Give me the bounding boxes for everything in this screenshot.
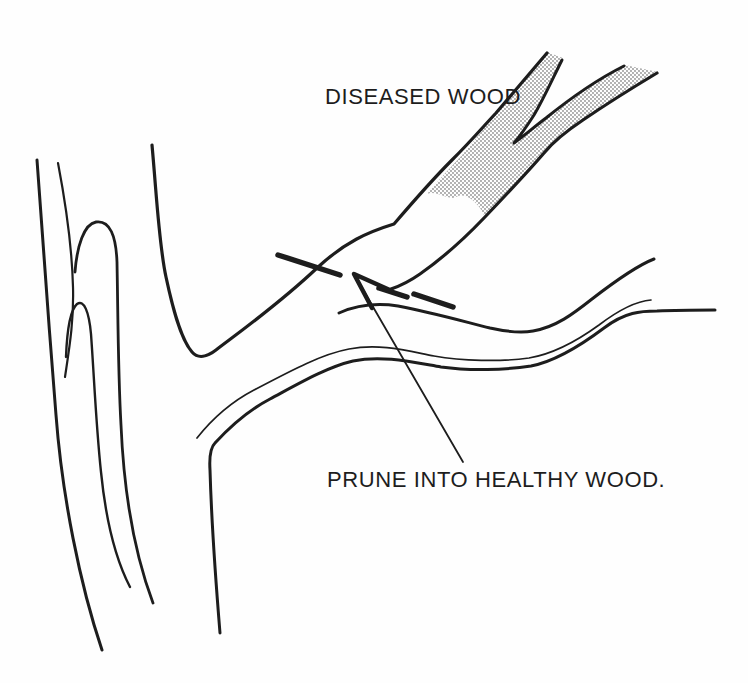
pruning-diagram: DISEASED WOOD PRUNE INTO HEALTHY WOOD. — [0, 0, 748, 683]
prune-instruction-label: PRUNE INTO HEALTHY WOOD. — [327, 467, 665, 492]
diagram-canvas: DISEASED WOOD PRUNE INTO HEALTHY WOOD. — [0, 0, 748, 683]
diseased-wood-label: DISEASED WOOD — [325, 84, 521, 109]
